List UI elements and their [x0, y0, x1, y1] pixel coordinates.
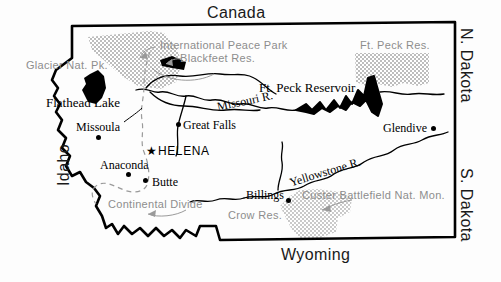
flathead-leader	[124, 108, 142, 122]
city-dot-anaconda	[126, 172, 131, 177]
area-label-glacier-national-park: Glacier Nat. Pk.	[26, 60, 108, 71]
area-label-ft-peck-reservation: Ft. Peck Res.	[360, 40, 430, 51]
capital-label-helena: HELENA	[158, 145, 210, 157]
city-dot-glendive	[431, 126, 436, 131]
capital-star-icon: ★	[146, 145, 157, 157]
city-dot-butte	[143, 178, 148, 183]
city-label-great-falls: Great Falls	[183, 119, 236, 131]
city-dot-billings	[286, 198, 291, 203]
neighbor-label-wyoming: Wyoming	[281, 247, 350, 263]
city-dot-great-falls	[176, 122, 181, 127]
area-label-blackfeet-reservation: Blackfeet Res.	[180, 53, 255, 64]
area-label-crow-reservation: Crow Res.	[228, 210, 282, 221]
neighbor-label-canada: Canada	[207, 5, 265, 21]
neighbor-label-north-dakota: N. Dakota	[458, 28, 474, 103]
continental-divide-arrowhead	[148, 210, 156, 217]
city-label-butte: Butte	[152, 176, 178, 188]
ft-peck-reservation-shape	[355, 53, 429, 87]
city-label-missoula: Missoula	[76, 121, 120, 133]
neighbor-label-idaho: Idaho	[56, 144, 72, 186]
missouri-lower-east	[380, 92, 444, 95]
city-label-glendive: Glendive	[383, 122, 427, 134]
city-label-anaconda: Anaconda	[100, 159, 149, 171]
city-dot-missoula	[96, 135, 101, 140]
montana-reference-map: Canada N. Dakota S. Dakota Wyoming Idaho…	[0, 0, 501, 282]
city-label-billings: Billings	[246, 189, 284, 201]
water-label-ft-peck-reservoir: Ft. Peck Reservoir	[259, 81, 355, 94]
yellowstone-tributary-north	[278, 142, 283, 190]
area-label-custer-battlefield: Custer Battlefield Nat. Mon.	[302, 190, 445, 201]
area-label-international-peace-park: International Peace Park	[160, 40, 288, 51]
neighbor-label-south-dakota: S. Dakota	[458, 168, 474, 242]
water-label-flathead-lake: Flathead Lake	[46, 96, 120, 109]
continental-divide-label: Continental Divide	[108, 199, 203, 210]
